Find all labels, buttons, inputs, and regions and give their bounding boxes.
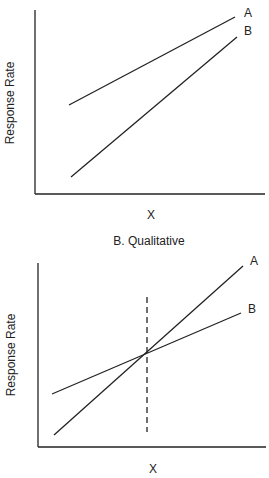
top-label-a: A	[244, 6, 252, 20]
bottom-chart: B. Qualitative A B X Response Rate	[4, 234, 266, 476]
top-chart: A B X Response Rate	[3, 6, 265, 222]
bottom-y-label: Response Rate	[4, 313, 18, 396]
top-line-b	[71, 37, 237, 177]
bottom-label-a: A	[250, 254, 258, 268]
top-x-label: X	[147, 208, 155, 222]
bottom-line-a	[54, 266, 243, 435]
top-label-b: B	[244, 24, 252, 38]
top-line-a	[69, 17, 235, 105]
figure: A B X Response Rate B. Qualitative A B X…	[0, 0, 269, 478]
bottom-title: B. Qualitative	[113, 234, 185, 248]
top-y-label: Response Rate	[3, 61, 17, 144]
bottom-x-label: X	[149, 462, 157, 476]
bottom-label-b: B	[248, 302, 256, 316]
